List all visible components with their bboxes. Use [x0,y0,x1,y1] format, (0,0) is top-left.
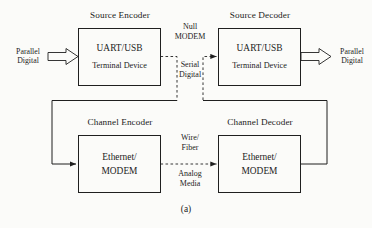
analog-media-label: Analog Media [160,169,220,189]
source-encoder-title: Source Encoder [68,11,172,21]
figure-caption: (a) [0,204,372,214]
channel-encoder-main-text: Ethernet/ [78,152,161,162]
output-label-parallel-digital: Parallel Digital [331,47,372,66]
channel-encoder-box [79,136,161,193]
wire-fiber-label: Wire/ Fiber [160,133,220,153]
source-decoder-sub-text: Terminal Device [218,62,301,71]
source-decoder-box [219,29,301,86]
source-decoder-main-text: UART/USB [218,43,301,53]
serial-digital-label: Serial Digital [160,60,220,80]
input-label-parallel-digital: Parallel Digital [6,47,50,66]
null-modem-label: Null MODEM [160,22,220,42]
source-encoder-box [79,29,161,86]
input-block-arrow [48,49,78,65]
channel-decoder-box [219,136,301,193]
source-decoder-title: Source Decoder [208,11,312,21]
source-encoder-main-text: UART/USB [78,43,161,53]
figure-block-diagram: Source Encoder Source Decoder Channel En… [0,0,372,228]
output-block-arrow [301,49,331,65]
source-encoder-sub-text: Terminal Device [78,62,161,71]
channel-decoder-sub-text: MODEM [218,166,301,176]
channel-decoder-main-text: Ethernet/ [218,152,301,162]
channel-encoder-sub-text: MODEM [78,166,161,176]
channel-encoder-title: Channel Encoder [66,118,174,128]
channel-decoder-title: Channel Decoder [206,118,314,128]
